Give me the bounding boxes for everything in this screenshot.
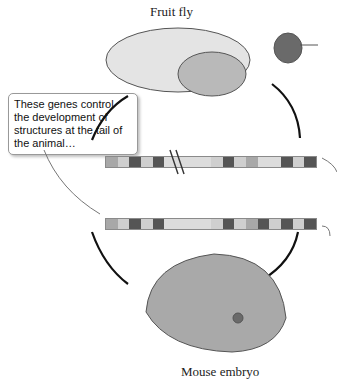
homology-arrows-icon bbox=[92, 84, 300, 284]
diagram-artwork bbox=[0, 0, 337, 388]
hox-gene-diagram: Fruit fly These genes control the develo… bbox=[0, 0, 337, 388]
mouse-embryo-illustration-icon bbox=[146, 254, 286, 352]
callout-leader-icon bbox=[44, 150, 337, 236]
mouse-embryo-label: Mouse embryo bbox=[181, 364, 259, 380]
fruit-fly-illustration-icon bbox=[106, 28, 318, 96]
bar-break-mark-icon bbox=[170, 150, 184, 174]
